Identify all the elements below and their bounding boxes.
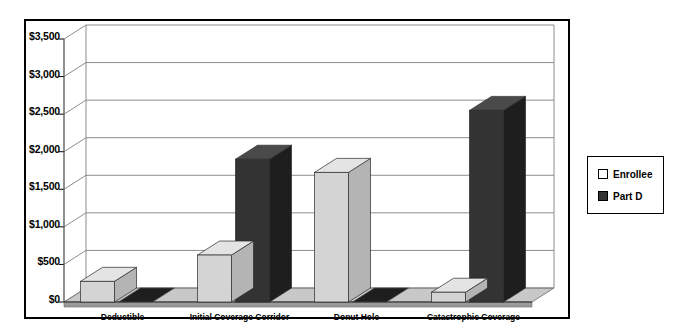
chart-floor-lip [64, 302, 532, 307]
legend-label-enrollee: Enrollee [613, 169, 652, 180]
y-axis-tick-label: $2,000 [2, 144, 60, 155]
gridline-depth-connector [64, 213, 86, 227]
gridline-depth-connector [64, 138, 86, 152]
y-axis-tick-label: $1,500 [2, 181, 60, 192]
gridline-depth-connector [64, 25, 86, 39]
bar-front-face [432, 292, 466, 302]
chart-container [24, 19, 570, 319]
legend-swatch-part-d [598, 191, 608, 201]
bar-enrollee-donut-hole [315, 158, 371, 302]
plot-area [26, 21, 572, 321]
bar-side-face [270, 145, 292, 302]
y-axis-tick-label: $0 [2, 294, 60, 305]
chart-3d-canvas [26, 21, 572, 321]
bar-enrollee-initial-coverage-corridor [198, 241, 254, 302]
y-axis-tick-label: $2,500 [2, 106, 60, 117]
legend-item-enrollee[interactable]: Enrollee [598, 166, 652, 182]
bar-side-face [349, 158, 371, 302]
y-axis: $0$500$1,000$1,500$2,000$2,500$3,000$3,5… [0, 19, 60, 319]
legend-swatch-enrollee [598, 169, 608, 179]
legend-item-part-d[interactable]: Part D [598, 188, 652, 204]
bar-part-d-catastrophic-coverage [470, 96, 526, 302]
chart-legend: Enrollee Part D [587, 156, 664, 214]
bar-front-face [198, 255, 232, 302]
bar-front-face [315, 172, 349, 302]
bar-front-face [81, 281, 115, 302]
bar-side-face [504, 96, 526, 302]
y-axis-tick-label: $500 [2, 256, 60, 267]
gridline-depth-connector [64, 100, 86, 114]
gridline-depth-connector [64, 250, 86, 264]
legend-label-part-d: Part D [613, 191, 642, 202]
y-axis-tick-label: $3,500 [2, 31, 60, 42]
gridline-depth-connector [64, 63, 86, 77]
y-axis-tick-label: $1,000 [2, 219, 60, 230]
y-axis-tick-label: $3,000 [2, 69, 60, 80]
gridline-depth-connector [64, 175, 86, 189]
bar-front-face [470, 110, 504, 302]
